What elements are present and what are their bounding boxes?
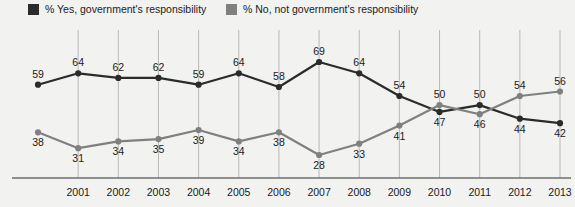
data-point bbox=[155, 136, 161, 142]
data-point bbox=[276, 129, 282, 135]
x-axis-label-2004: 2004 bbox=[187, 186, 210, 198]
data-point bbox=[477, 102, 483, 108]
legend-item-no: % No, not government's responsibility bbox=[226, 4, 418, 15]
x-axis-label-2009: 2009 bbox=[388, 186, 411, 198]
data-point bbox=[115, 138, 121, 144]
legend-label-yes: % Yes, government's responsibility bbox=[45, 4, 206, 15]
data-point-label: 54 bbox=[514, 79, 526, 91]
legend-swatch-icon-no bbox=[226, 4, 237, 15]
data-point-label: 50 bbox=[474, 88, 486, 100]
x-axis-label-2007: 2007 bbox=[307, 186, 330, 198]
data-point-label: 64 bbox=[233, 56, 245, 68]
data-point bbox=[517, 93, 523, 99]
data-point-label: 47 bbox=[434, 116, 446, 128]
data-point-label: 44 bbox=[514, 123, 526, 135]
x-axis-label-2013: 2013 bbox=[548, 186, 571, 198]
x-axis-label-2010: 2010 bbox=[428, 186, 451, 198]
data-point bbox=[356, 70, 362, 76]
data-point bbox=[276, 84, 282, 90]
data-point-label: 34 bbox=[233, 145, 245, 157]
legend-label-no: % No, not government's responsibility bbox=[243, 4, 418, 15]
data-point-label: 39 bbox=[193, 134, 205, 146]
data-point bbox=[557, 120, 563, 126]
data-point bbox=[35, 82, 41, 88]
data-point bbox=[316, 59, 322, 65]
data-point bbox=[115, 75, 121, 81]
data-point-label: 54 bbox=[394, 79, 406, 91]
line-chart: % Yes, government's responsibility % No,… bbox=[0, 0, 575, 207]
plot-svg: 5964626259645869645447504442383134353934… bbox=[0, 26, 575, 181]
data-point-label: 38 bbox=[273, 136, 285, 148]
data-point-label: 33 bbox=[353, 148, 365, 160]
data-point bbox=[196, 82, 202, 88]
data-point-label: 64 bbox=[353, 56, 365, 68]
data-point-label: 28 bbox=[313, 159, 325, 171]
data-point bbox=[436, 102, 442, 108]
data-point-label: 64 bbox=[72, 56, 84, 68]
x-axis-label-2001: 2001 bbox=[66, 186, 89, 198]
legend-swatch-icon-yes bbox=[28, 4, 39, 15]
data-point-label: 50 bbox=[434, 88, 446, 100]
x-axis: 2001200220032004200520062007200820092010… bbox=[0, 181, 575, 207]
x-axis-label-2011: 2011 bbox=[468, 186, 491, 198]
data-point-label: 42 bbox=[554, 127, 566, 139]
data-point bbox=[396, 93, 402, 99]
data-point bbox=[75, 145, 81, 151]
data-point-label: 69 bbox=[313, 45, 325, 57]
x-axis-label-2008: 2008 bbox=[348, 186, 371, 198]
data-point-label: 58 bbox=[273, 70, 285, 82]
data-point bbox=[236, 138, 242, 144]
data-point-label: 62 bbox=[112, 61, 124, 73]
data-point-label: 38 bbox=[32, 136, 44, 148]
x-axis-label-2006: 2006 bbox=[267, 186, 290, 198]
x-axis-label-2002: 2002 bbox=[107, 186, 130, 198]
data-point-label: 59 bbox=[193, 68, 205, 80]
data-point bbox=[557, 88, 563, 94]
x-axis-label-2003: 2003 bbox=[147, 186, 170, 198]
data-point-label: 34 bbox=[112, 145, 124, 157]
chart-legend: % Yes, government's responsibility % No,… bbox=[0, 0, 575, 26]
data-point-label: 41 bbox=[394, 130, 406, 142]
data-point bbox=[436, 109, 442, 115]
data-point bbox=[75, 70, 81, 76]
data-point bbox=[517, 116, 523, 122]
data-point bbox=[356, 141, 362, 147]
data-point-label: 56 bbox=[554, 75, 566, 87]
data-point bbox=[35, 129, 41, 135]
x-axis-label-2005: 2005 bbox=[227, 186, 250, 198]
data-point-label: 31 bbox=[72, 152, 84, 164]
data-point-label: 62 bbox=[153, 61, 165, 73]
data-point bbox=[155, 75, 161, 81]
legend-item-yes: % Yes, government's responsibility bbox=[28, 4, 206, 15]
data-point-label: 35 bbox=[153, 143, 165, 155]
data-point bbox=[196, 127, 202, 133]
data-point bbox=[477, 111, 483, 117]
data-point-label: 59 bbox=[32, 68, 44, 80]
data-point bbox=[316, 152, 322, 158]
data-point bbox=[396, 122, 402, 128]
plot-area: 5964626259645869645447504442383134353934… bbox=[0, 26, 575, 181]
data-point bbox=[236, 70, 242, 76]
data-point-label: 46 bbox=[474, 118, 486, 130]
x-axis-label-2012: 2012 bbox=[508, 186, 531, 198]
